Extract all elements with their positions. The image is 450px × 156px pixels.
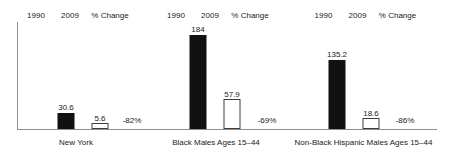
bar-group-non-black-hispanic-males-15-44: 1990 2009 % Change 135.2 18.6 -86% Non-B… — [290, 0, 437, 156]
bar-2009[interactable]: 18.6 — [363, 118, 380, 129]
pct-change-label: -82% — [109, 116, 155, 125]
category-label: Black Males Ages 15–44 — [150, 138, 282, 148]
bar-value-2009: 57.9 — [224, 90, 240, 99]
group-plot-area: 135.2 18.6 -86% — [290, 0, 437, 129]
bar-chart: 1990 2009 % Change 30.6 5.6 -82% New Yor… — [0, 0, 450, 156]
bar-value-2009: 5.6 — [94, 114, 105, 123]
category-label: Non-Black Hispanic Males Ages 15–44 — [290, 138, 437, 148]
bar-1990[interactable]: 184 — [190, 35, 207, 129]
category-label: New York — [17, 138, 135, 148]
pct-change-label: -86% — [382, 116, 428, 125]
bar-value-2009: 18.6 — [363, 109, 379, 118]
group-plot-area: 30.6 5.6 -82% — [17, 0, 135, 129]
bar-value-1990: 135.2 — [327, 50, 347, 59]
bar-group-new-york: 1990 2009 % Change 30.6 5.6 -82% New Yor… — [17, 0, 135, 156]
bar-group-black-males-15-44: 1990 2009 % Change 184 57.9 -69% Black M… — [150, 0, 282, 156]
bar-value-1990: 30.6 — [58, 103, 74, 112]
group-plot-area: 184 57.9 -69% — [150, 0, 282, 129]
bar-value-1990: 184 — [191, 25, 204, 34]
bar-2009[interactable]: 5.6 — [92, 123, 109, 129]
bar-1990[interactable]: 135.2 — [329, 60, 346, 129]
bar-1990[interactable]: 30.6 — [58, 113, 75, 129]
pct-change-label: -69% — [244, 116, 290, 125]
bar-2009[interactable]: 57.9 — [224, 99, 241, 129]
